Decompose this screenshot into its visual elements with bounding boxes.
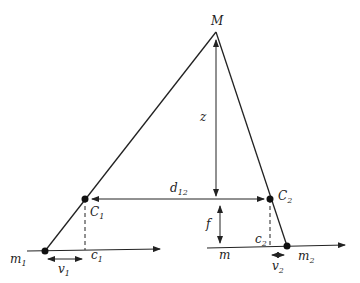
label-v1: v1 [58,262,70,278]
label-f: f [205,217,213,231]
label-m1: m1 [10,252,26,268]
label-c2: c2 [255,232,267,248]
label-C1: C1 [90,205,104,221]
point-C2 [267,196,274,203]
point-C1 [82,196,89,203]
label-c1: c1 [91,248,103,264]
point-m2 [284,243,291,250]
ray-m1-to-M [45,32,216,251]
label-d12: d12 [170,181,188,197]
label-m2: m2 [298,249,314,265]
stereo-geometry-diagram: M z d12 C1 C2 f m1 c1 c2 m m2 v1 v2 [0,0,360,283]
label-m: m [219,248,230,262]
label-v2: v2 [272,259,284,275]
ray-m2-to-M [216,32,287,246]
label-z: z [199,110,207,124]
label-M: M [210,14,224,28]
point-m1 [42,248,49,255]
label-C2: C2 [278,189,292,205]
